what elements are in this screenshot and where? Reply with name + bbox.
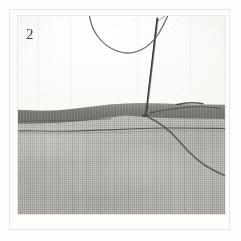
figure-plate: 2 [0,0,241,241]
fabric-slub-texture [17,108,226,215]
fabric-tonal-mottle [17,108,226,215]
photograph-figure: 2 [17,15,226,215]
figure-number-label: 2 [26,27,34,42]
fabric-weave-texture [17,108,226,215]
fabric-cloth [17,108,226,215]
